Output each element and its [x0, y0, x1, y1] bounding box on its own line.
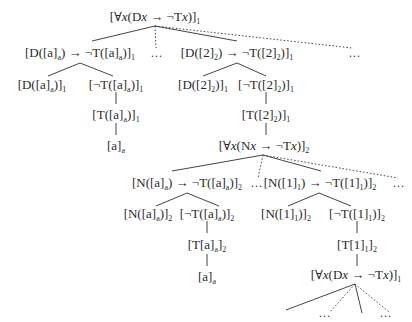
node-t-a: [T([a]a)]1: [92, 108, 139, 122]
node-n-t-1: [T[1]1]2: [337, 238, 377, 252]
node-forall-n: [∀x(Nx → ¬Tx)]2: [219, 139, 310, 153]
node-n-leaf-a: [a]a: [198, 270, 216, 284]
node-n-negt-1: [¬T([1]1)]2: [329, 207, 385, 221]
node-conditional-a: [D([a]a) → ¬T([a]a)]1: [25, 46, 135, 60]
ellipsis-branch: …: [393, 176, 406, 191]
node-n-1: [N([1]1)]2: [261, 207, 311, 221]
node-d-2: [D([2]2)]1: [178, 78, 228, 92]
node-leaf-a: [a]a: [107, 139, 125, 153]
node-conditional-2: [D([2]2) → ¬T([2]2)]1: [181, 46, 293, 60]
node-n-conditional-a: [N([a]a) → ¬T([a]a)]2: [132, 176, 242, 190]
node-n-conditional-1: [N([1]1) → ¬T([1]1)]2: [264, 176, 376, 190]
node-d-a: [D([a]a)]1: [18, 78, 67, 92]
node-t-2: [T([2]2)]1: [242, 108, 290, 122]
node-n-negt-a: [¬T([a]a)]2: [180, 207, 235, 221]
proof-tree-diagram: [∀x(Dx → ¬Tx)]1 [D([a]a) → ¬T([a]a)]1 … …: [0, 0, 412, 322]
node-root: [∀x(Dx → ¬Tx)]1: [110, 10, 201, 24]
node-n-t-a: [T[a]a]2: [188, 238, 227, 252]
ellipsis-branch: …: [251, 176, 264, 191]
ellipsis-branch: …: [151, 46, 164, 61]
ellipsis-branch: …: [319, 306, 332, 321]
node-negt-a: [¬T([a]a)]1: [89, 78, 144, 92]
node-negt-2: [¬T([2]2)]1: [238, 78, 294, 92]
node-n-a: [N([a]a)]2: [124, 207, 173, 221]
node-forall-d-repeat: [∀x(Dx → ¬Tx)]1: [311, 268, 402, 282]
ellipsis-branch: …: [349, 46, 362, 61]
ellipsis-branch: …: [380, 306, 393, 321]
